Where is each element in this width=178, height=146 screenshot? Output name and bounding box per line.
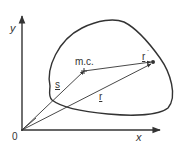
r-vector-label: r xyxy=(99,91,103,102)
position-vectors-diagram: y x 0 m.c. s r r ´ xyxy=(0,0,178,146)
vector-s xyxy=(22,71,84,130)
s-vector-label: s xyxy=(55,79,60,90)
y-axis-label: y xyxy=(9,22,17,34)
x-axis-label: x xyxy=(135,131,142,143)
center-of-mass-label: m.c. xyxy=(75,56,94,67)
origin-label: 0 xyxy=(12,131,18,142)
particle-dot xyxy=(151,60,155,64)
vector-r xyxy=(22,64,151,130)
r-prime-vector-label: r xyxy=(142,51,146,62)
vector-r-prime xyxy=(84,62,151,71)
prime-mark: ´ xyxy=(147,48,150,57)
